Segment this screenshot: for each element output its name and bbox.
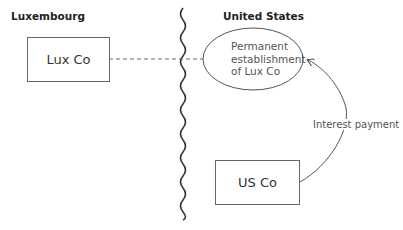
region-label-luxembourg: Luxembourg: [11, 10, 85, 22]
diagram-canvas: [0, 0, 403, 230]
country-border-wavy-line: [181, 8, 186, 220]
region-label-united-states: United States: [223, 10, 304, 22]
pe-label-line-1: Permanent: [231, 40, 306, 53]
us-co-label: US Co: [238, 175, 277, 190]
lux-co-label: Lux Co: [46, 52, 90, 67]
interest-payment-label: Interest payment: [313, 119, 399, 130]
pe-label-line-3: of Lux Co: [231, 65, 306, 78]
lux-co-box: Lux Co: [27, 37, 110, 82]
us-co-box: US Co: [215, 160, 300, 205]
pe-label-line-2: establishment: [231, 53, 306, 66]
permanent-establishment-label: Permanent establishment of Lux Co: [231, 40, 306, 78]
